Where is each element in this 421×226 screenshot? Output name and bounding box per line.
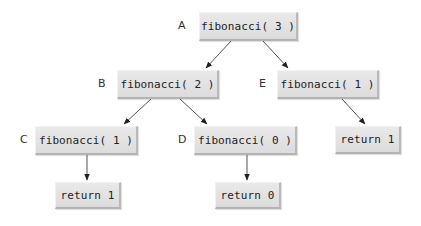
node-label-c: C: [20, 133, 28, 146]
node-e-fibonacci-1: fibonacci( 1 ): [277, 70, 379, 99]
node-a-fibonacci-3: fibonacci( 3 ): [199, 12, 298, 41]
return-box-e: return 1: [335, 126, 401, 154]
node-d-fibonacci-0: fibonacci( 0 ): [194, 126, 297, 155]
node-b-fibonacci-2: fibonacci( 2 ): [117, 70, 219, 99]
return-box-c: return 1: [55, 182, 121, 209]
arrow-e-to-return: [342, 99, 365, 124]
arrow-b-to-c: [124, 99, 151, 124]
arrow-a-to-e: [263, 41, 288, 68]
arrow-a-to-b: [206, 41, 231, 68]
node-label-a: A: [178, 19, 186, 32]
node-label-b: B: [98, 77, 106, 90]
arrow-b-to-d: [180, 99, 207, 124]
node-label-e: E: [259, 77, 266, 90]
recursion-tree-diagram: A fibonacci( 3 ) B fibonacci( 2 ) E fibo…: [0, 0, 421, 226]
node-c-fibonacci-1: fibonacci( 1 ): [35, 126, 138, 155]
return-box-d: return 0: [215, 182, 281, 209]
node-label-d: D: [178, 133, 186, 146]
